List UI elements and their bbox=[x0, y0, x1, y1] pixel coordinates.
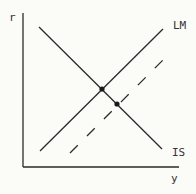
x-axis-label: y bbox=[171, 172, 178, 185]
initial-equilibrium-point bbox=[99, 86, 104, 91]
new-equilibrium-point bbox=[114, 101, 119, 106]
is-label: IS bbox=[172, 146, 185, 159]
is-lm-diagram: r y LM IS bbox=[0, 0, 196, 194]
lm-label: LM bbox=[173, 19, 187, 32]
y-axis-label: r bbox=[9, 11, 16, 24]
